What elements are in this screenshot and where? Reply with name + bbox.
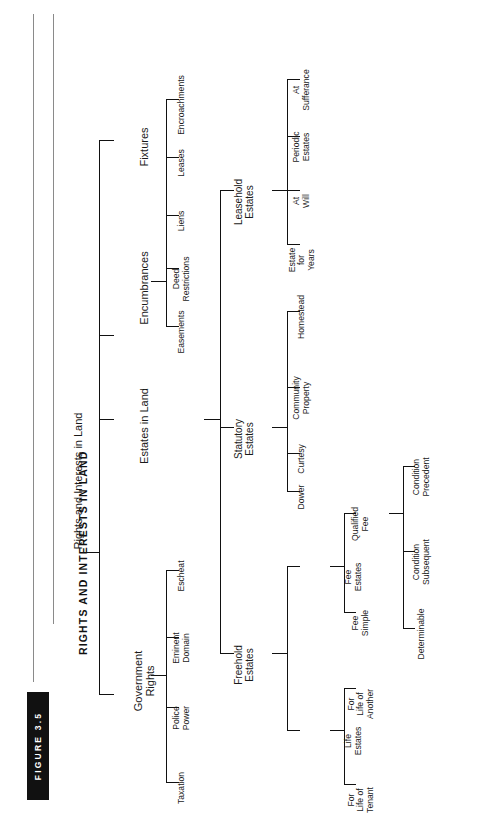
tree-node-encumbrances: Encumbrances (137, 248, 151, 328)
tree-node-government-rights: Government Rights (131, 637, 157, 725)
connector-root-to-estates (99, 419, 114, 420)
connector-leasehold-spine (287, 79, 288, 244)
page-margin-rule-outer (33, 14, 34, 682)
connector-government-spine (166, 570, 167, 782)
connector-freehold-to-fee-estates (287, 566, 300, 567)
connector-encumbrances-spine (166, 99, 167, 326)
tree-node-curtesy: Curtesy (296, 438, 308, 480)
connector-freehold-to-life-estates (287, 730, 300, 731)
connector-qualified-fee-to-determinable (403, 628, 415, 629)
connector-qualified-fee-spine (403, 466, 404, 628)
tree-node-deed-restrictions: Deed Restrictions (171, 255, 193, 303)
tree-node-eminent-domain: Eminent Domain (171, 626, 193, 670)
tree-node-fixtures: Fixtures (137, 120, 151, 174)
tree-node-condition-subsequent: Condition Subsequent (411, 536, 433, 588)
figure-number-tab: FIGURE 3.5 (27, 692, 49, 800)
connector-root-stub (84, 552, 100, 553)
connector-leasehold-stub (272, 190, 287, 191)
connector-freehold-stub (272, 653, 287, 654)
connector-estates-stub (204, 419, 220, 420)
tree-node-taxation: Taxation (176, 765, 188, 811)
tree-node-condition-precedent: Condition Precedent (411, 452, 433, 502)
tree-node-for-life-of-tenant: For Life of Tenant (345, 781, 377, 819)
tree-node-estate-for-years: Estate for Years (286, 242, 318, 278)
tree-node-fee-simple: Fee Simple (350, 607, 372, 639)
tree-node-at-sufferance: At Sufferance (291, 66, 313, 114)
connector-fee-estates-stub (330, 566, 344, 567)
tree-node-determinable: Determinable (416, 605, 428, 663)
page-margin-rule-inner (53, 14, 54, 624)
tree-node-root: Rights and Interests in Land (70, 410, 86, 552)
connector-statutory-spine (287, 311, 288, 491)
tree-node-statutory-estates: Statutory Estates (232, 411, 256, 467)
connector-qualified-fee-stub (389, 513, 403, 514)
tree-node-at-will: At Will (291, 188, 313, 214)
tree-node-fee-estates: Fee Estates (343, 557, 365, 597)
connector-root-to-government (99, 694, 114, 695)
tree-node-liens: Liens (176, 207, 188, 235)
connector-freehold-spine (287, 566, 288, 730)
connector-statutory-stub (272, 427, 287, 428)
tree-node-life-estates: Life Estates (343, 720, 365, 762)
tree-node-community-property: Community Property (291, 374, 313, 422)
connector-root-to-fixtures (99, 140, 114, 141)
connector-root-to-encumbrances (99, 335, 114, 336)
connector-root-spine (99, 140, 100, 695)
tree-node-easements: Easements (176, 307, 188, 357)
tree-node-leases: Leases (176, 145, 188, 181)
tree-node-qualified-fee: Qualified Fee (350, 502, 372, 546)
connector-encumbrances-stub (151, 281, 166, 282)
tree-node-estates-in-land: Estates in Land (137, 383, 151, 469)
tree-node-for-life-of-another: For Life of Another (345, 684, 377, 724)
tree-node-homestead: Homestead (296, 291, 308, 343)
tree-node-dower: Dower (296, 478, 308, 516)
connector-life-estates-stub (330, 730, 344, 731)
tree-node-freehold-estates: Freehold Estates (232, 636, 256, 694)
tree-node-escheat: Escheat (176, 555, 188, 597)
tree-node-leasehold-estates: Leasehold Estates (232, 173, 256, 231)
tree-node-police-power: Police Power (171, 699, 193, 737)
tree-node-encroachments: Encroachments (176, 73, 188, 137)
tree-node-periodic-estates: Periodic Estates (291, 126, 313, 168)
connector-estates-spine (220, 190, 221, 653)
